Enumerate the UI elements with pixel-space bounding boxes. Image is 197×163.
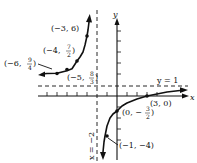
point-label-neg1: (−1, −4) [119,141,154,150]
x-axis-label: x [190,93,195,102]
right-branch-arrow-down [100,152,106,160]
svg-text:): ) [95,73,98,82]
svg-text:3: 3 [146,105,150,112]
point-label-0: (0, − 3 2 ) [122,105,154,120]
svg-text:8: 8 [90,70,94,77]
svg-text:4: 4 [28,64,32,71]
svg-text:): ) [151,108,154,117]
svg-text:3: 3 [90,78,94,85]
svg-text:(0, −: (0, − [122,108,142,117]
vertical-asymptote-label: x = −2 [87,132,96,160]
x-axis [38,92,189,99]
svg-text:(−5,: (−5, [67,73,84,82]
pointer-neg6 [38,64,52,69]
left-branch-arrow-up [86,14,92,23]
y-axis-label: y [112,10,118,19]
right-branch-arrow-right [180,87,188,93]
svg-text:2: 2 [146,113,150,120]
svg-text:): ) [72,46,75,55]
rational-function-graph: y x y = 1 x = −2 (−3, 6) (−4, [0,0,197,163]
left-branch-arrow-left [38,72,45,78]
svg-text:7: 7 [67,43,71,50]
point-label-neg3: (−3, 6) [51,24,79,33]
point-label-neg4: (−4, 7 2 ) [43,43,75,58]
svg-text:9: 9 [28,56,32,63]
svg-text:(−4,: (−4, [43,46,60,55]
svg-text:2: 2 [67,51,71,58]
point-label-neg6: (−6, 9 4 ) [4,56,36,71]
svg-text:(−6,: (−6, [4,59,21,68]
svg-text:): ) [33,59,36,68]
point-label-3-0: (3, 0) [150,99,172,108]
point-label-neg5: (−5, 8 3 ) [67,70,98,85]
y-axis [115,18,122,160]
horizontal-asymptote-label: y = 1 [156,76,178,85]
